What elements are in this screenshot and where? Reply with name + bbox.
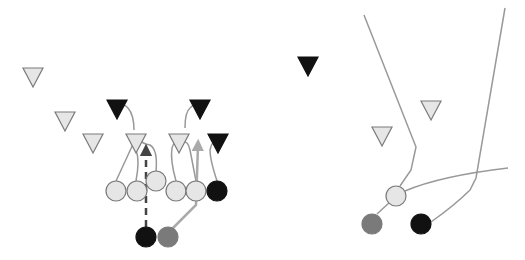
route-line [405, 168, 508, 191]
route-line [377, 202, 390, 214]
defender-dark-triangle-icon [208, 134, 228, 153]
route-line [431, 8, 505, 222]
offense-gray-circle-icon [362, 214, 382, 234]
offense-circle-icon [127, 181, 147, 201]
defender-triangle-icon [23, 68, 43, 87]
left-play-routes [116, 104, 218, 229]
right-play-players [298, 57, 441, 234]
offense-dark-circle-icon [411, 214, 431, 234]
defender-triangle-icon [55, 112, 75, 131]
offense-dark-circle-icon [136, 227, 156, 247]
route-line [116, 142, 134, 181]
offense-dark-circle-icon [207, 181, 227, 201]
offense-circle-icon [186, 181, 206, 201]
route-line [364, 15, 416, 186]
defender-triangle-icon [372, 127, 392, 146]
right-play-routes [364, 8, 508, 222]
defender-dark-triangle-icon [107, 100, 127, 119]
route-line [182, 142, 196, 181]
route-line [136, 150, 138, 181]
play-diagram [0, 0, 525, 260]
defender-dark-triangle-icon [298, 57, 318, 76]
offense-circle-icon [106, 181, 126, 201]
route-line [140, 140, 156, 171]
defender-triangle-icon [421, 101, 441, 120]
offense-gray-circle-icon [158, 227, 178, 247]
defender-dark-triangle-icon [190, 100, 210, 119]
offense-circle-icon [386, 186, 406, 206]
offense-circle-icon [146, 171, 166, 191]
defender-triangle-icon [83, 134, 103, 153]
offense-circle-icon [166, 181, 186, 201]
